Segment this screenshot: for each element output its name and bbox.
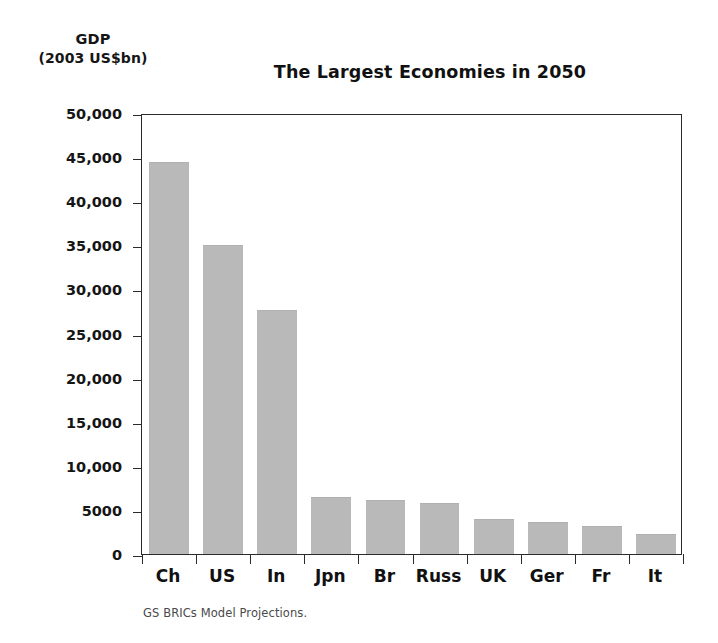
y-axis-tick bbox=[133, 424, 142, 425]
bar-it bbox=[636, 534, 676, 554]
x-axis-tick bbox=[304, 554, 305, 564]
bar-ger bbox=[528, 522, 568, 554]
bar-fr bbox=[582, 526, 622, 554]
x-axis-tick bbox=[196, 554, 197, 564]
x-axis-tick bbox=[629, 554, 630, 564]
y-axis-tick-label: 25,000 bbox=[0, 327, 131, 343]
y-axis-tick bbox=[133, 380, 142, 381]
bar-us bbox=[203, 245, 243, 554]
x-axis-tick bbox=[575, 554, 576, 564]
y-axis-tick bbox=[133, 203, 142, 204]
y-axis-caption-title: GDP bbox=[18, 30, 168, 49]
x-axis-tick bbox=[142, 554, 143, 564]
plot-area bbox=[141, 114, 682, 555]
y-axis-tick-label: 30,000 bbox=[0, 282, 131, 298]
source-note: GS BRICs Model Projections. bbox=[143, 606, 307, 620]
y-axis-tick bbox=[133, 247, 142, 248]
y-axis-tick bbox=[133, 291, 142, 292]
x-axis-tick-label: US bbox=[195, 566, 249, 586]
x-axis-tick bbox=[413, 554, 414, 564]
x-axis-tick bbox=[467, 554, 468, 564]
x-axis-tick-label: Fr bbox=[574, 566, 628, 586]
x-axis-tick-label: In bbox=[249, 566, 303, 586]
y-axis-caption-unit: (2003 US$bn) bbox=[18, 49, 168, 67]
bar-jpn bbox=[311, 497, 351, 554]
y-axis-tick-label: 10,000 bbox=[0, 459, 131, 475]
y-axis-tick bbox=[133, 468, 142, 469]
chart-title: The Largest Economies in 2050 bbox=[160, 62, 700, 82]
y-axis-tick-label: 35,000 bbox=[0, 238, 131, 254]
x-axis-tick-label: Russ bbox=[412, 566, 466, 586]
x-axis-tick bbox=[683, 554, 684, 564]
x-axis-tick-labels: ChUSInJpnBrRussUKGerFrIt bbox=[141, 566, 682, 594]
x-axis-tick bbox=[250, 554, 251, 564]
y-axis-tick bbox=[133, 336, 142, 337]
y-axis-tick bbox=[133, 115, 142, 116]
y-axis-tick-label: 0 bbox=[0, 547, 131, 563]
y-axis-tick-labels: 0500010,00015,00020,00025,00030,00035,00… bbox=[0, 114, 131, 555]
y-axis-tick-label: 40,000 bbox=[0, 194, 131, 210]
x-axis-tick-label: Ger bbox=[520, 566, 574, 586]
y-axis-caption: GDP (2003 US$bn) bbox=[18, 30, 168, 68]
y-axis-tick bbox=[133, 556, 142, 557]
x-axis-tick-label: It bbox=[628, 566, 682, 586]
x-axis-tick bbox=[521, 554, 522, 564]
x-axis-tick-label: Br bbox=[357, 566, 411, 586]
y-axis-tick-label: 45,000 bbox=[0, 150, 131, 166]
bar-in bbox=[257, 310, 297, 554]
x-axis-tick-label: UK bbox=[466, 566, 520, 586]
x-axis-tick-label: Ch bbox=[141, 566, 195, 586]
x-axis-tick bbox=[358, 554, 359, 564]
y-axis-tick-label: 5000 bbox=[0, 503, 131, 519]
y-axis-tick-label: 20,000 bbox=[0, 371, 131, 387]
y-axis-tick bbox=[133, 512, 142, 513]
y-axis-tick bbox=[133, 159, 142, 160]
bar-ch bbox=[149, 162, 189, 554]
x-axis-tick-label: Jpn bbox=[303, 566, 357, 586]
bar-br bbox=[366, 500, 406, 554]
y-axis-tick-label: 50,000 bbox=[0, 106, 131, 122]
bar-uk bbox=[474, 519, 514, 554]
y-axis-tick-label: 15,000 bbox=[0, 415, 131, 431]
bar-russ bbox=[420, 503, 460, 554]
